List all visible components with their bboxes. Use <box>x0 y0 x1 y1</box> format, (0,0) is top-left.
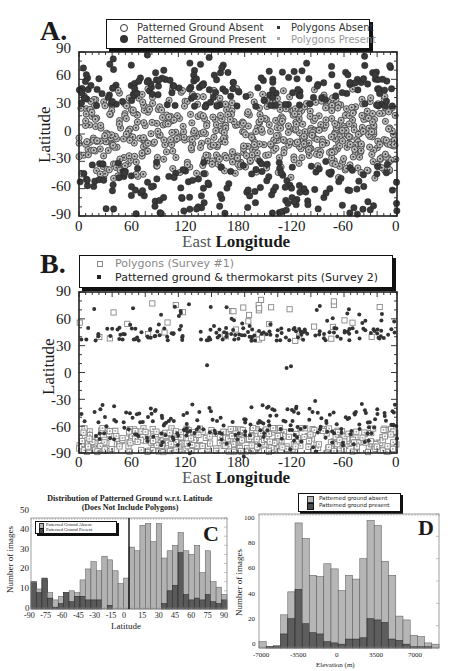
panel-d-ylabel: Number of images <box>235 549 244 616</box>
x-tick: 7000 <box>408 651 422 660</box>
x-tick: 3500 <box>369 651 383 660</box>
panel-b-letter: B. <box>40 250 66 278</box>
x-tick: -15 <box>106 611 117 620</box>
y-tick: 20 <box>20 564 29 573</box>
open-square-icon <box>97 261 103 267</box>
panel-c-title: Distribution of Patterned Ground w.r.t. … <box>30 494 230 512</box>
x-tick: -75 <box>40 611 51 620</box>
small-dot-icon <box>277 26 280 29</box>
present-swatch-icon <box>307 503 314 510</box>
panel-a-xlabel: East Longitude <box>182 233 290 250</box>
x-tick: 0 <box>75 455 83 470</box>
panel-a-ylabel: Latitude <box>36 106 53 163</box>
y-tick: 10 <box>20 584 29 593</box>
y-tick: 60 <box>248 564 255 573</box>
y-tick: 40 <box>248 590 255 599</box>
x-tick: 75 <box>204 611 212 620</box>
y-tick: -90 <box>51 446 71 461</box>
legend-present: Patterned Ground Present <box>46 527 92 532</box>
x-tick: 60 <box>124 455 139 470</box>
small-dot-gray-icon <box>277 37 280 40</box>
x-tick: 0 <box>335 651 339 660</box>
x-tick: -60 <box>333 219 353 234</box>
y-tick: 100 <box>244 514 255 523</box>
xlabel-east: East <box>182 468 216 487</box>
x-tick: -30 <box>89 611 100 620</box>
panel-c-title-line2: (Does Not Include Polygons) <box>30 503 230 512</box>
x-tick: -3500 <box>290 651 306 660</box>
absent-swatch-icon <box>307 496 314 503</box>
y-tick: 0 <box>64 366 72 381</box>
x-tick: 60 <box>124 219 139 234</box>
x-tick: -90 <box>24 611 35 620</box>
panel-b-legend: Polygons (Survey #1) Patterned ground & … <box>79 255 393 288</box>
filled-circle-icon <box>120 35 128 43</box>
y-tick: -60 <box>51 179 71 194</box>
y-tick: -30 <box>51 393 71 408</box>
panel-c-ylabel: Number of images <box>6 526 15 593</box>
y-tick: 30 <box>20 545 29 554</box>
panel-a-plot <box>79 52 397 216</box>
panel-c-title-line1: Distribution of Patterned Ground w.r.t. … <box>30 494 230 503</box>
x-tick: 90 <box>220 611 228 620</box>
panel-c-xlabel: Latitude <box>111 622 141 631</box>
y-tick: 60 <box>56 312 71 327</box>
y-tick: 90 <box>56 41 71 56</box>
y-tick: -30 <box>51 151 71 166</box>
x-tick: 0 <box>122 611 126 620</box>
panel-d-xlabel: Elevation (m) <box>316 661 355 669</box>
panel-b-xlabel: East Longitude <box>182 469 290 486</box>
legend-patterned: Patterned ground & thermokarst pits (Sur… <box>115 272 378 283</box>
y-tick: 90 <box>56 284 71 299</box>
legend-poly-absent: Polygons Absent <box>291 22 374 33</box>
x-tick: 0 <box>392 219 400 234</box>
y-tick: 30 <box>56 339 71 354</box>
x-tick: 0 <box>75 219 83 234</box>
panel-d-plot <box>259 514 439 648</box>
y-tick: 0 <box>252 640 256 649</box>
y-tick: 50 <box>20 506 29 515</box>
legend-present: Patterned ground present <box>319 502 390 509</box>
y-tick: 40 <box>20 525 29 534</box>
legend-pg-present: Patterned Ground Present <box>137 34 266 45</box>
panel-b-ylabel: Latitude <box>40 338 57 395</box>
panel-c-letter: C <box>203 523 219 545</box>
x-tick: 30 <box>155 611 163 620</box>
panel-d-legend: Patterned ground absent Patterned ground… <box>298 493 401 512</box>
xlabel-longitude: Longitude <box>216 468 291 487</box>
legend-pg-absent: Patterned Ground Absent <box>137 22 263 33</box>
x-tick: 60 <box>187 611 195 620</box>
x-tick: 15 <box>138 611 146 620</box>
y-tick: 20 <box>248 615 255 624</box>
xlabel-east: East <box>182 232 216 251</box>
y-tick: -90 <box>51 207 71 222</box>
legend-absent: Patterned ground absent <box>319 495 387 502</box>
x-tick: 45 <box>171 611 179 620</box>
y-tick: -60 <box>51 420 71 435</box>
panel-b-plot <box>79 292 397 453</box>
filled-dot-icon <box>97 275 101 279</box>
x-tick: -60 <box>57 611 68 620</box>
y-tick: 30 <box>56 96 71 111</box>
open-circle-icon <box>120 24 128 32</box>
legend-poly-present: Polygons Present <box>291 34 376 45</box>
x-tick: -7000 <box>253 651 269 660</box>
present-swatch-icon <box>39 528 44 534</box>
panel-d-letter: D <box>418 517 434 539</box>
x-tick: -60 <box>333 455 353 470</box>
panel-a-legend: Patterned Ground Absent Patterned Ground… <box>106 19 370 49</box>
xlabel-longitude: Longitude <box>216 232 291 251</box>
y-tick: 60 <box>56 68 71 83</box>
x-tick: 0 <box>392 455 400 470</box>
y-tick: 80 <box>248 539 255 548</box>
panel-c-legend: Patterned Ground Absent Patterned Ground… <box>35 521 117 534</box>
legend-polygons: Polygons (Survey #1) <box>115 258 234 269</box>
x-tick: -45 <box>73 611 84 620</box>
y-tick: 0 <box>64 124 72 139</box>
